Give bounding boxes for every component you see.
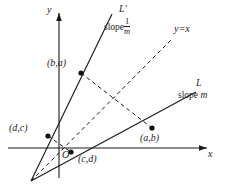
slope-value-m: m <box>200 90 207 100</box>
reflection-segment <box>81 73 152 128</box>
point-label-b-a: (b,a) <box>47 58 66 68</box>
x-axis <box>8 145 207 151</box>
slope-numerator: 1 <box>124 17 130 26</box>
point-label-c-d: (c,d) <box>78 154 97 164</box>
line-label-L: L <box>196 78 202 88</box>
point-a-b <box>149 125 154 130</box>
slope-fraction-one-over-m: 1m <box>124 17 130 36</box>
geometry-figure: y x O L' slope1m y=x L slope m (b,a) (d,… <box>0 0 227 187</box>
line-L <box>31 92 196 181</box>
y-axis-label: y <box>47 5 51 15</box>
point-label-d-c: (d,c) <box>9 123 28 133</box>
line-label-L-prime: L' <box>119 4 127 14</box>
point-b-a <box>78 70 83 75</box>
line-label-y-equals-x: y=x <box>174 24 190 34</box>
origin-label: O <box>62 150 69 160</box>
slope-word-L: slope <box>178 90 198 100</box>
slope-label-L: slope m <box>178 91 207 101</box>
x-axis-label: x <box>208 149 212 159</box>
slope-denominator: m <box>124 26 130 36</box>
point-label-a-b: (a,b) <box>140 133 159 143</box>
slope-label-L-prime: slope1m <box>104 17 130 36</box>
slope-word-L-prime: slope <box>104 22 124 32</box>
line-L-prime <box>31 14 112 181</box>
point-d-c <box>45 133 50 138</box>
